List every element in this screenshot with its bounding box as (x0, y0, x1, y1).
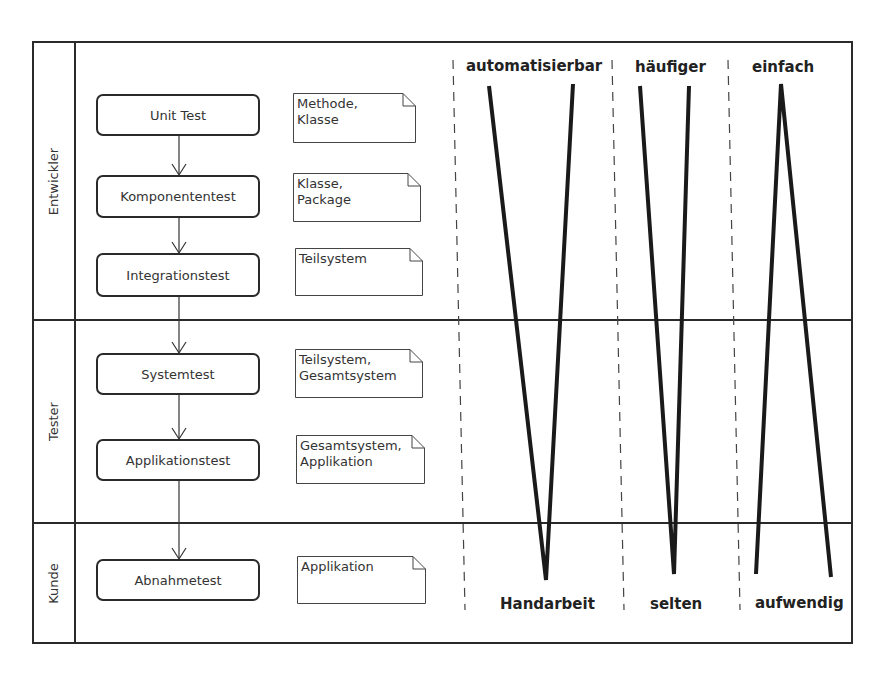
scale-bottom-aufwendig: aufwendig (755, 594, 844, 612)
activity-abnahmetest[interactable]: Abnahmetest (96, 559, 260, 601)
note-systemtest: Teilsystem, Gesamtsystem (295, 349, 423, 398)
activity-integrationstest[interactable]: Integrationstest (96, 253, 260, 297)
scale-bottom-selten: selten (650, 595, 702, 613)
note-applikationstest: Gesamtsystem, Applikation (296, 435, 425, 484)
activity-komponententest[interactable]: Komponententest (96, 175, 260, 218)
note-unit-test: Methode, Klasse (293, 93, 416, 143)
note-integrationstest: Teilsystem (295, 248, 423, 296)
note-abnahmetest: Applikation (297, 556, 426, 604)
scale-bottom-handarbeit: Handarbeit (500, 595, 595, 613)
activity-systemtest[interactable]: Systemtest (96, 353, 260, 395)
scale-lines (489, 84, 831, 580)
activity-applikationstest[interactable]: Applikationstest (96, 439, 260, 481)
activity-unit-test[interactable]: Unit Test (96, 94, 260, 136)
scale-top-einfach: einfach (752, 58, 814, 76)
scale-top-haeufiger: häufiger (635, 58, 706, 76)
note-komponententest: Klasse, Package (293, 173, 421, 222)
scale-top-automatisierbar: automatisierbar (466, 57, 602, 75)
